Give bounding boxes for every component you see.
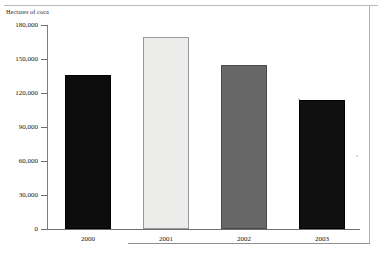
- bar-2000: [65, 75, 111, 229]
- bar-fill: [299, 100, 345, 229]
- bar-fill: [221, 65, 267, 229]
- y-axis-tick-label: 120,000: [0, 89, 48, 97]
- scan-speckle: [298, 98, 300, 100]
- x-axis-label-2000: 2000: [65, 235, 111, 243]
- x-axis-label-2002: 2002: [221, 235, 267, 243]
- bar-2001: [143, 37, 189, 229]
- y-axis-tick-label: 30,000: [0, 191, 48, 199]
- bar-fill: [143, 37, 189, 229]
- bar-chart-figure: Hectares of coca 180,000150,000120,00090…: [0, 0, 386, 257]
- x-axis-label-2003: 2003: [299, 235, 345, 243]
- scan-speckle: [356, 155, 358, 157]
- bar-2003: [299, 100, 345, 229]
- y-axis-tick-label: 150,000: [0, 55, 48, 63]
- plot-area: 180,000150,000120,00090,00060,00030,0000…: [0, 0, 386, 257]
- x-axis-label-2001: 2001: [143, 235, 189, 243]
- y-axis-tick-label: 0: [0, 225, 48, 233]
- y-axis-tick-label: 60,000: [0, 157, 48, 165]
- x-axis-line: [47, 229, 360, 230]
- y-axis-tick-label: 180,000: [0, 21, 48, 29]
- y-axis-tick-label: 90,000: [0, 123, 48, 131]
- bar-fill: [65, 75, 111, 229]
- bar-2002: [221, 65, 267, 229]
